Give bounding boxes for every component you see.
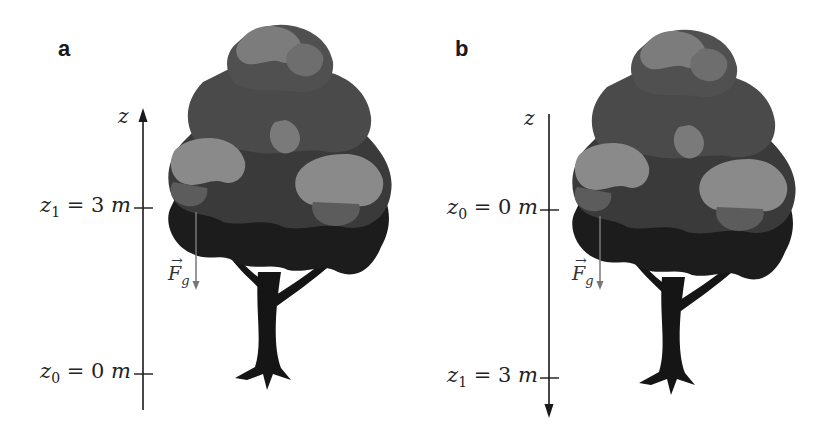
tick-label-z1: z1 = 3 m <box>447 363 538 390</box>
tick-label-z0: z0 = 0 m <box>40 359 131 386</box>
panel-b: b z z0 = 0 m z1 = 3 m →Fg <box>414 0 829 437</box>
tick-label-z1: z1 = 3 m <box>40 193 131 220</box>
force-label-fg: →Fg <box>572 262 594 288</box>
axis-label-z: z <box>118 104 129 128</box>
force-label-fg: →Fg <box>168 262 190 288</box>
axis-label-z: z <box>524 106 535 130</box>
force-arrow-down-icon <box>193 281 200 290</box>
tick-label-z0: z0 = 0 m <box>447 195 538 222</box>
arrow-up-icon <box>139 108 148 122</box>
arrow-down-icon <box>545 404 554 418</box>
panel-a: a z z1 = 3 m z0 = 0 m →Fg <box>0 0 414 437</box>
force-arrow-down-icon <box>597 281 604 290</box>
